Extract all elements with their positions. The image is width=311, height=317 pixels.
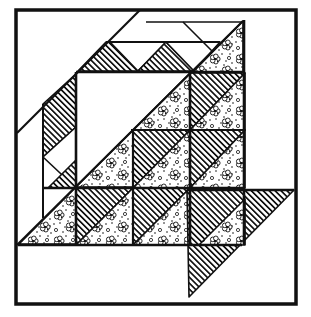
scanned-illustration-page bbox=[0, 0, 311, 317]
quilt-block-figure bbox=[0, 0, 311, 317]
quilt-block-svg bbox=[0, 0, 311, 317]
